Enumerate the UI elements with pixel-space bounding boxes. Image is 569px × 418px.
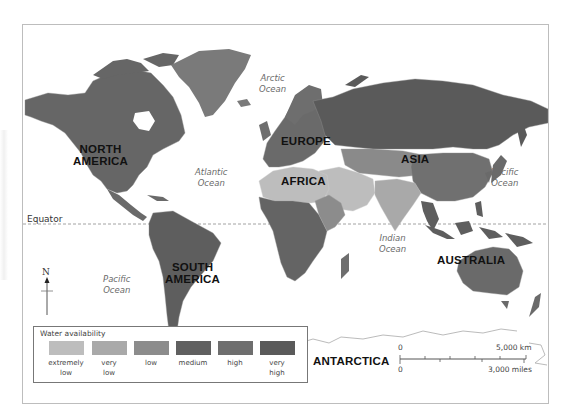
atlantic-line1: Atlantic — [195, 167, 227, 178]
south-america-line1: SOUTH — [165, 261, 220, 273]
pacific-east-line1: Pacific — [491, 167, 519, 178]
label-africa: AFRICA — [281, 175, 326, 187]
pacific-east-line2: Ocean — [491, 178, 519, 189]
legend-text-line: extremely — [48, 358, 84, 368]
legend-item-very-low: very low — [91, 341, 127, 378]
central-africa — [259, 197, 327, 281]
scale-zero-km: 0 — [398, 343, 403, 352]
legend-item-low: low — [133, 341, 169, 368]
compass-north-label: N — [42, 267, 50, 277]
scale-bar: 0 5,000 km 0 3,000 miles — [398, 343, 548, 383]
arctic-line1: Arctic — [259, 73, 286, 84]
legend-text-line: very — [259, 358, 295, 368]
legend-text-line: medium — [175, 358, 211, 368]
greenland — [171, 49, 251, 117]
legend-text-line: high — [259, 368, 295, 378]
north-america-line2: AMERICA — [73, 155, 128, 167]
legend: Water availability extremely low very lo… — [33, 326, 308, 383]
label-antarctica: ANTARCTICA — [313, 355, 390, 367]
equator-label: Equator — [27, 214, 62, 224]
map-frame: NORTH AMERICA SOUTH AMERICA EUROPE AFRIC… — [22, 24, 549, 404]
legend-label: high — [217, 358, 253, 368]
swatch-very-high — [260, 341, 295, 355]
legend-item-very-high: very high — [259, 341, 295, 378]
legend-label: very low — [91, 358, 127, 378]
label-pacific-ocean-west: Pacific Ocean — [103, 274, 131, 296]
russia — [313, 79, 548, 149]
pacific-west-line1: Pacific — [103, 274, 131, 285]
swatch-high — [218, 341, 253, 355]
north-america-line1: NORTH — [73, 143, 128, 155]
india — [375, 179, 421, 231]
atlantic-line2: Ocean — [195, 178, 227, 189]
swatch-medium — [176, 341, 211, 355]
scale-km-label: 5,000 km — [496, 343, 532, 352]
scale-miles-label: 3,000 miles — [488, 365, 532, 374]
legend-text-line: high — [217, 358, 253, 368]
north-america — [25, 69, 185, 193]
north-arrow-icon — [40, 277, 54, 327]
label-pacific-ocean-east: Pacific Ocean — [491, 167, 519, 189]
legend-item-extremely-low: extremely low — [48, 341, 84, 378]
page-binding-shadow — [0, 130, 8, 280]
legend-label: low — [133, 358, 169, 368]
legend-text-line: very — [91, 358, 127, 368]
legend-label: extremely low — [48, 358, 84, 378]
legend-item-high: high — [217, 341, 253, 368]
legend-title: Water availability — [40, 329, 105, 338]
legend-text-line: low — [133, 358, 169, 368]
label-arctic-ocean: Arctic Ocean — [259, 73, 286, 95]
label-indian-ocean: Indian Ocean — [379, 233, 406, 255]
compass: N — [40, 267, 54, 317]
scale-zero-miles: 0 — [398, 365, 403, 374]
label-north-america: NORTH AMERICA — [73, 143, 128, 167]
legend-text-line: low — [91, 368, 127, 378]
swatch-very-low — [92, 341, 127, 355]
swatch-extremely-low — [49, 341, 84, 355]
south-america-line2: AMERICA — [165, 273, 220, 285]
pacific-west-line2: Ocean — [103, 285, 131, 296]
legend-label: medium — [175, 358, 211, 368]
label-asia: ASIA — [401, 153, 429, 165]
swatch-low — [134, 341, 169, 355]
legend-item-medium: medium — [175, 341, 211, 368]
label-south-america: SOUTH AMERICA — [165, 261, 220, 285]
legend-text-line: low — [48, 368, 84, 378]
label-atlantic-ocean: Atlantic Ocean — [195, 167, 227, 189]
label-europe: EUROPE — [281, 135, 331, 147]
indian-line1: Indian — [379, 233, 406, 244]
legend-label: very high — [259, 358, 295, 378]
indian-line2: Ocean — [379, 244, 406, 255]
arctic-line2: Ocean — [259, 84, 286, 95]
label-australia: AUSTRALIA — [437, 254, 505, 266]
